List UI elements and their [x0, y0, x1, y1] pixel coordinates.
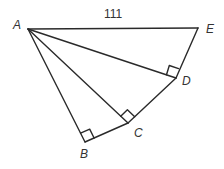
- segment-ae: [28, 28, 198, 29]
- segment-ab: [28, 29, 85, 142]
- segment-ad: [28, 29, 176, 78]
- segment-de: [176, 28, 198, 78]
- vertex-label-a: A: [12, 18, 21, 32]
- right-angle-marker-d: [167, 66, 179, 75]
- vertex-label-b: B: [80, 147, 88, 161]
- length-label-ae: 111: [104, 7, 123, 21]
- vertex-label-d: D: [182, 74, 191, 88]
- diagram-canvas: 111 A E D C B: [0, 0, 224, 169]
- geometry-diagram: 111 A E D C B: [0, 0, 224, 169]
- segment-cd: [128, 78, 176, 123]
- vertex-label-c: C: [134, 126, 143, 140]
- right-angle-marker-c: [121, 110, 135, 117]
- segment-ac: [28, 29, 128, 123]
- vertex-label-e: E: [206, 22, 215, 36]
